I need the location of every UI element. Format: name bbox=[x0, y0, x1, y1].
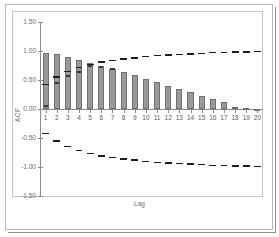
acf-chart-figure: 1.501.000.500.00-0.50-1.00-1.50 12345678… bbox=[0, 0, 279, 237]
bar-marker bbox=[77, 71, 81, 73]
x-axis-tick-label: 2 bbox=[51, 114, 62, 121]
bar bbox=[199, 96, 205, 109]
lower-confidence-dash bbox=[243, 165, 250, 166]
y-axis-tick-label: 1.00 bbox=[23, 47, 36, 54]
bar bbox=[187, 92, 193, 109]
lower-confidence-dash bbox=[131, 159, 138, 160]
upper-confidence-dash bbox=[87, 64, 94, 65]
upper-confidence-dash bbox=[198, 53, 205, 54]
y-axis-tick-label: 0.50 bbox=[23, 76, 36, 83]
bar bbox=[109, 69, 115, 109]
upper-confidence-dash bbox=[131, 57, 138, 58]
bar bbox=[132, 75, 138, 109]
bar bbox=[221, 102, 227, 109]
x-axis-tick bbox=[224, 109, 225, 113]
x-axis-tick-label: 10 bbox=[140, 114, 151, 121]
lower-confidence-dash bbox=[209, 165, 216, 166]
x-axis-tick bbox=[146, 109, 147, 113]
x-axis-tick-label: 4 bbox=[73, 114, 84, 121]
upper-confidence-dash bbox=[154, 55, 161, 56]
upper-confidence-dash bbox=[53, 76, 60, 77]
x-axis-tick bbox=[124, 109, 125, 113]
x-axis-tick-label: 3 bbox=[62, 114, 73, 121]
lower-confidence-dash bbox=[64, 146, 71, 147]
x-axis-tick-label: 20 bbox=[252, 114, 263, 121]
y-axis-tick-label: -1.50 bbox=[21, 192, 36, 199]
upper-confidence-dash bbox=[109, 60, 116, 61]
bar bbox=[65, 57, 71, 109]
x-axis-tick bbox=[246, 109, 247, 113]
lower-confidence-dash bbox=[87, 153, 94, 154]
y-axis-title: ACF bbox=[12, 95, 22, 135]
y-axis-tick-label: -1.00 bbox=[21, 163, 36, 170]
x-axis-tick bbox=[57, 109, 58, 113]
lower-confidence-dash bbox=[187, 163, 194, 164]
x-axis-tick-label: 19 bbox=[241, 114, 252, 121]
lower-confidence-dash bbox=[42, 133, 49, 134]
y-axis-tick-label: -0.50 bbox=[21, 134, 36, 141]
x-axis-tick bbox=[68, 109, 69, 113]
x-axis-tick-label: 9 bbox=[129, 114, 140, 121]
x-axis-tick bbox=[46, 109, 47, 113]
lower-confidence-dash bbox=[165, 162, 172, 163]
bar bbox=[43, 53, 49, 109]
x-axis-tick bbox=[112, 109, 113, 113]
bar bbox=[154, 82, 160, 109]
bar bbox=[143, 79, 149, 109]
upper-confidence-dash bbox=[98, 61, 105, 62]
upper-confidence-dash bbox=[64, 71, 71, 72]
upper-confidence-dash bbox=[76, 67, 83, 68]
x-axis-tick bbox=[213, 109, 214, 113]
x-axis-tick bbox=[257, 109, 258, 113]
lower-confidence-dash bbox=[198, 164, 205, 165]
lower-confidence-dash bbox=[142, 161, 149, 162]
x-axis-tick-label: 17 bbox=[218, 114, 229, 121]
x-axis-tick bbox=[101, 109, 102, 113]
x-axis-tick-label: 8 bbox=[118, 114, 129, 121]
y-axis-tick-label: 0.00 bbox=[23, 105, 36, 112]
lower-confidence-dash bbox=[98, 155, 105, 156]
lower-confidence-dash bbox=[109, 157, 116, 158]
bar bbox=[165, 86, 171, 109]
x-axis-tick bbox=[191, 109, 192, 113]
lower-confidence-dash bbox=[53, 140, 60, 141]
bar bbox=[121, 72, 127, 109]
lower-confidence-dash bbox=[154, 162, 161, 163]
bar-marker bbox=[110, 68, 114, 70]
x-axis-tick bbox=[179, 109, 180, 113]
bar-marker bbox=[44, 105, 48, 107]
x-axis-tick bbox=[79, 109, 80, 113]
y-axis-tick-label: 1.50 bbox=[23, 18, 36, 25]
lower-confidence-dash bbox=[221, 165, 228, 166]
x-axis-zero-line bbox=[40, 109, 263, 110]
bar bbox=[176, 89, 182, 109]
bar-marker bbox=[99, 66, 103, 68]
x-axis-tick bbox=[168, 109, 169, 113]
bar bbox=[98, 66, 104, 109]
lower-confidence-dash bbox=[232, 165, 239, 166]
upper-confidence-dash bbox=[165, 54, 172, 55]
x-axis-tick-label: 13 bbox=[174, 114, 185, 121]
x-axis-tick-label: 11 bbox=[152, 114, 163, 121]
x-axis-tick-label: 6 bbox=[96, 114, 107, 121]
x-axis-title: Lag bbox=[0, 200, 279, 207]
upper-confidence-dash bbox=[209, 52, 216, 53]
lower-confidence-dash bbox=[76, 150, 83, 151]
upper-confidence-dash bbox=[254, 51, 261, 52]
x-axis-tick-label: 14 bbox=[185, 114, 196, 121]
upper-confidence-dash bbox=[243, 51, 250, 52]
x-axis-tick bbox=[90, 109, 91, 113]
x-axis-tick-label: 16 bbox=[207, 114, 218, 121]
x-axis-tick-label: 7 bbox=[107, 114, 118, 121]
x-axis-tick-label: 1 bbox=[40, 114, 51, 121]
upper-confidence-dash bbox=[42, 84, 49, 85]
upper-confidence-dash bbox=[120, 58, 127, 59]
x-axis-tick-label: 5 bbox=[85, 114, 96, 121]
x-axis-tick-label: 18 bbox=[230, 114, 241, 121]
bar-marker bbox=[66, 75, 70, 77]
bar-marker bbox=[55, 82, 59, 84]
x-axis-tick-label: 12 bbox=[163, 114, 174, 121]
bar bbox=[210, 99, 216, 109]
x-axis-tick bbox=[157, 109, 158, 113]
upper-confidence-dash bbox=[142, 56, 149, 57]
